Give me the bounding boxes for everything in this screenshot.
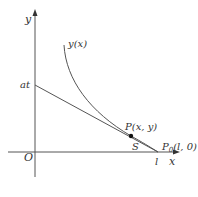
curve-label: y(x) xyxy=(67,38,87,49)
pursuit-curve xyxy=(64,45,158,152)
arc-length-label: S xyxy=(132,141,139,152)
x-axis-label: x xyxy=(169,155,176,168)
point-P-marker xyxy=(129,134,133,138)
y-intercept-label: at xyxy=(20,79,31,90)
y-axis-label: y xyxy=(24,13,32,26)
tangent-line xyxy=(35,85,158,152)
point-P-label: P(x, y) xyxy=(124,121,157,132)
pursuit-curve-diagram: y x O y(x) at P(x, y) S P0(l, 0) l xyxy=(0,0,198,197)
x-intercept-label: l xyxy=(155,156,158,167)
y-axis-arrow-icon xyxy=(33,9,38,16)
origin-label: O xyxy=(24,151,33,164)
